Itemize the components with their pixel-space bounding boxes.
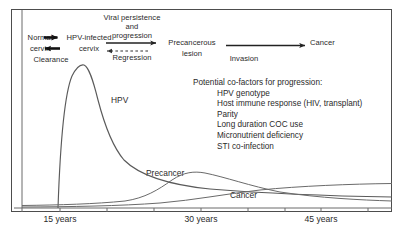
curve-label-hpv: HPV (111, 95, 128, 105)
flow-node-precancerous-line1: Precancerous (161, 38, 223, 47)
flow-label-invasion: Invasion (216, 54, 272, 63)
flow-node-precancerous-line2: lesion (161, 49, 223, 58)
cofactors-heading: Potential co-factors for progression: (193, 78, 362, 89)
flow-label-regression: Regression (100, 53, 164, 62)
flow-label-persistence-line2: and (96, 22, 168, 31)
cofactor-item: Micronutrient deficiency (217, 131, 362, 142)
cofactors-block: Potential co-factors for progression: HP… (193, 78, 362, 152)
flow-node-normal-cervix-line1: Normal (18, 33, 62, 42)
curve-label-precancer: Precancer (146, 168, 184, 178)
cofactor-item: STI co-infection (217, 142, 362, 153)
flow-node-normal-cervix-line2: cervix (18, 44, 62, 53)
cofactor-item: Parity (217, 110, 362, 121)
axis-tick-label-30-years: 30 years (185, 214, 218, 224)
flow-label-clearance: Clearance (18, 55, 84, 64)
cofactor-item: Host immune response (HIV, transplant) (217, 99, 362, 110)
cofactors-list: HPV genotype Host immune response (HIV, … (193, 89, 362, 153)
flow-label-persistence-line1: Viral persistence (96, 13, 168, 22)
curve-label-cancer: Cancer (230, 190, 257, 200)
cofactor-item: Long duration COC use (217, 120, 362, 131)
flow-node-hpv-infected-line2: cervix (60, 44, 118, 53)
axis-tick-label-45-years: 45 years (305, 214, 338, 224)
flow-label-persistence-line3: progression (96, 31, 168, 40)
axis-tick-label-15-years: 15 years (44, 214, 77, 224)
flow-node-cancer: Cancer (310, 38, 335, 47)
figure-root: Normal cervix HPV-infected cervix Cleara… (0, 0, 408, 235)
cofactor-item: HPV genotype (217, 89, 362, 100)
